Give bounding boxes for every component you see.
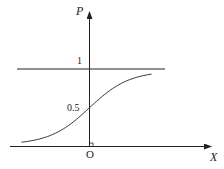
origin-label: O bbox=[86, 148, 94, 160]
logistic-chart: P X O 1 0.5 bbox=[0, 0, 224, 169]
y-axis-label: P bbox=[75, 4, 84, 18]
x-axis-label: X bbox=[209, 150, 218, 164]
right-angle-marker bbox=[90, 143, 94, 147]
logistic-curve bbox=[22, 74, 152, 142]
y-tick-label-1: 1 bbox=[77, 55, 82, 66]
y-tick-label-0-5: 0.5 bbox=[67, 102, 80, 113]
